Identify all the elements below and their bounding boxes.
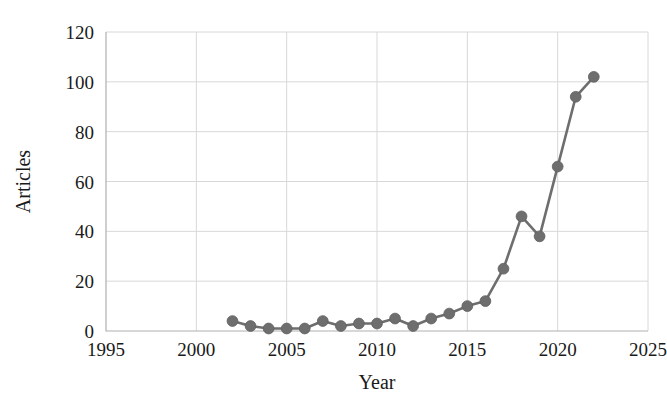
data-point: 2013: 5 xyxy=(426,313,437,324)
y-tick-label: 20 xyxy=(75,271,94,292)
x-tick-label: 2015 xyxy=(448,339,486,360)
data-point: 2004: 1 xyxy=(263,323,274,334)
data-point: 2015: 10 xyxy=(462,301,473,312)
data-point: 2022: 102 xyxy=(588,71,599,82)
x-axis-tick-labels: 1995200020052010201520202025 xyxy=(87,339,667,360)
data-point: 2019: 38 xyxy=(534,231,545,242)
data-point: 2016: 12 xyxy=(480,296,491,307)
data-point: 2009: 3 xyxy=(354,318,365,329)
y-tick-label: 100 xyxy=(66,72,95,93)
y-tick-label: 120 xyxy=(66,22,95,43)
series-articles: 2002: 42003: 22004: 12005: 12006: 12007:… xyxy=(227,71,599,333)
y-tick-label: 60 xyxy=(75,172,94,193)
data-point: 2010: 3 xyxy=(372,318,383,329)
data-point: 2007: 4 xyxy=(317,316,328,327)
x-tick-label: 2000 xyxy=(177,339,215,360)
data-point: 2018: 46 xyxy=(516,211,527,222)
data-point: 2003: 2 xyxy=(245,321,256,332)
data-point: 2011: 5 xyxy=(390,313,401,324)
x-tick-label: 2005 xyxy=(268,339,306,360)
data-point: 2008: 2 xyxy=(335,321,346,332)
x-tick-label: 2020 xyxy=(539,339,577,360)
line-chart-figure: 020406080100120 199520002005201020152020… xyxy=(0,0,667,419)
y-tick-label: 80 xyxy=(75,122,94,143)
data-point: 2021: 94 xyxy=(570,91,581,102)
data-point: 2005: 1 xyxy=(281,323,292,334)
data-point: 2014: 7 xyxy=(444,308,455,319)
data-point: 2002: 4 xyxy=(227,316,238,327)
x-tick-label: 1995 xyxy=(87,339,125,360)
data-point: 2020: 66 xyxy=(552,161,563,172)
x-axis-title: Year xyxy=(359,371,396,393)
y-axis-title: Articles xyxy=(12,150,34,214)
x-tick-label: 2010 xyxy=(358,339,396,360)
data-point: 2012: 2 xyxy=(408,321,419,332)
x-tick-label: 2025 xyxy=(629,339,667,360)
gridlines-group xyxy=(106,32,648,331)
data-point: 2006: 1 xyxy=(299,323,310,334)
y-axis-tick-labels: 020406080100120 xyxy=(66,22,95,342)
data-point: 2017: 25 xyxy=(498,263,509,274)
chart-canvas: 020406080100120 199520002005201020152020… xyxy=(0,0,667,419)
y-tick-label: 40 xyxy=(75,221,94,242)
